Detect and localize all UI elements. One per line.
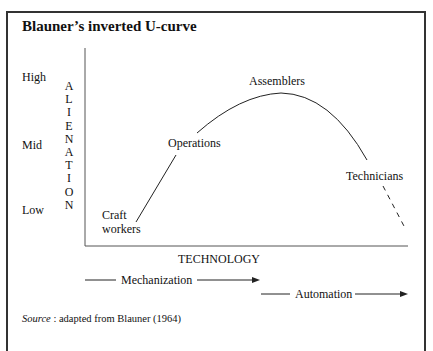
x-axis-label: TECHNOLOGY bbox=[178, 252, 260, 267]
automation-arrowhead-icon bbox=[400, 291, 408, 297]
phase-automation: Automation bbox=[295, 287, 352, 302]
label-operations: Operations bbox=[168, 136, 221, 150]
curve-dashed-extension bbox=[383, 186, 405, 228]
source-note: Source : adapted from Blauner (1964) bbox=[22, 313, 181, 324]
label-craft-line1: Craft bbox=[102, 208, 141, 222]
label-technicians: Technicians bbox=[346, 169, 403, 183]
label-craft-workers: Craft workers bbox=[102, 208, 141, 236]
curve-segment-craft-operations bbox=[136, 155, 176, 222]
mechanization-arrowhead-icon bbox=[252, 277, 260, 283]
source-text: : adapted from Blauner (1964) bbox=[51, 313, 181, 324]
label-craft-line2: workers bbox=[102, 222, 141, 236]
curve-segment-operations-technicians bbox=[197, 93, 367, 160]
label-assemblers: Assemblers bbox=[249, 74, 305, 88]
source-prefix: Source bbox=[22, 313, 51, 324]
phase-mechanization: Mechanization bbox=[121, 273, 192, 288]
